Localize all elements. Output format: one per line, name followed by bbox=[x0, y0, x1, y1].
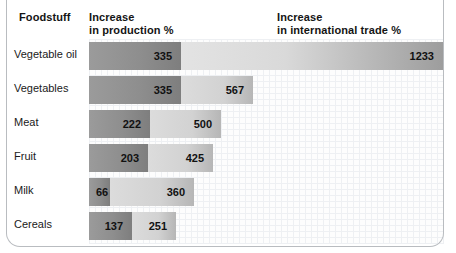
chart-rows: Vegetable oil3351233Vegetables335567Meat… bbox=[0, 39, 456, 244]
bar-value-production: 66 bbox=[96, 186, 108, 198]
stacked-bar: 3351233 bbox=[89, 42, 443, 70]
header-foodstuff: Foodstuff bbox=[19, 11, 71, 24]
bar-value-international-trade: 425 bbox=[186, 152, 204, 164]
bar-value-international-trade: 500 bbox=[194, 118, 212, 130]
bar-segment-international-trade: 360 bbox=[110, 178, 194, 206]
stacked-bar: 137251 bbox=[89, 212, 176, 240]
bar-segment-production: 335 bbox=[89, 42, 181, 70]
stacked-bar: 66360 bbox=[89, 178, 194, 206]
stacked-bar: 203425 bbox=[89, 144, 213, 172]
bar-segment-international-trade: 1233 bbox=[181, 42, 443, 70]
row-label-fruit: Fruit bbox=[14, 150, 36, 162]
header-increase-in-international-trade: Increase in international trade % bbox=[277, 11, 401, 37]
chart-row: Vegetable oil3351233 bbox=[0, 39, 456, 73]
bar-segment-production: 222 bbox=[89, 110, 150, 138]
bar-value-international-trade: 360 bbox=[167, 186, 185, 198]
bar-value-production: 137 bbox=[105, 220, 123, 232]
chart-figure: Foodstuff Increase in production % Incre… bbox=[0, 0, 456, 253]
bar-value-production: 335 bbox=[154, 50, 172, 62]
chart-row: Milk66360 bbox=[0, 175, 456, 209]
bar-value-production: 203 bbox=[121, 152, 139, 164]
stacked-bar: 222500 bbox=[89, 110, 221, 138]
bar-value-international-trade: 567 bbox=[226, 84, 244, 96]
chart-row: Cereals137251 bbox=[0, 209, 456, 243]
row-label-meat: Meat bbox=[14, 116, 38, 128]
chart-row: Meat222500 bbox=[0, 107, 456, 141]
row-label-vegetable-oil: Vegetable oil bbox=[14, 48, 77, 60]
bar-value-international-trade: 1233 bbox=[410, 50, 434, 62]
bar-segment-international-trade: 251 bbox=[132, 212, 176, 240]
stacked-bar: 335567 bbox=[89, 76, 253, 104]
chart-header: Foodstuff Increase in production % Incre… bbox=[0, 6, 456, 38]
bar-segment-international-trade: 567 bbox=[181, 76, 253, 104]
bar-segment-international-trade: 500 bbox=[150, 110, 221, 138]
chart-row: Fruit203425 bbox=[0, 141, 456, 175]
row-label-cereals: Cereals bbox=[14, 218, 52, 230]
chart-row: Vegetables335567 bbox=[0, 73, 456, 107]
row-label-milk: Milk bbox=[14, 184, 34, 196]
bar-segment-production: 137 bbox=[89, 212, 132, 240]
bar-value-production: 222 bbox=[123, 118, 141, 130]
bar-value-international-trade: 251 bbox=[149, 220, 167, 232]
bar-value-production: 335 bbox=[154, 84, 172, 96]
header-increase-in-production: Increase in production % bbox=[89, 11, 174, 37]
bar-segment-production: 203 bbox=[89, 144, 148, 172]
bar-segment-production: 66 bbox=[89, 178, 110, 206]
row-label-vegetables: Vegetables bbox=[14, 82, 68, 94]
bar-segment-international-trade: 425 bbox=[148, 144, 213, 172]
bar-segment-production: 335 bbox=[89, 76, 181, 104]
